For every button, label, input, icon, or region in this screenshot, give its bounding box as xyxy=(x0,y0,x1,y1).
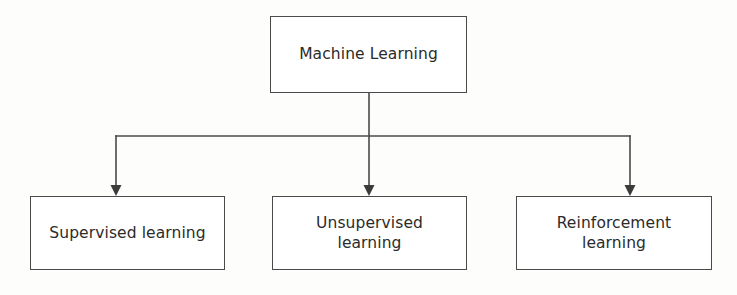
arrowhead-unsupervised-icon xyxy=(364,185,375,196)
node-reinforcement-learning[interactable]: Reinforcement learning xyxy=(516,196,712,270)
diagram-canvas: Machine Learning Supervised learning Uns… xyxy=(0,0,737,295)
node-machine-learning-label: Machine Learning xyxy=(293,44,444,64)
node-reinforcement-learning-label: Reinforcement learning xyxy=(551,213,678,254)
node-unsupervised-learning[interactable]: Unsupervised learning xyxy=(272,196,467,270)
arrowhead-supervised-icon xyxy=(111,185,122,196)
node-supervised-learning-label: Supervised learning xyxy=(43,223,211,243)
node-unsupervised-learning-label: Unsupervised learning xyxy=(310,213,429,254)
node-supervised-learning[interactable]: Supervised learning xyxy=(30,196,225,270)
node-machine-learning[interactable]: Machine Learning xyxy=(270,16,467,93)
arrowhead-reinforcement-icon xyxy=(625,185,636,196)
